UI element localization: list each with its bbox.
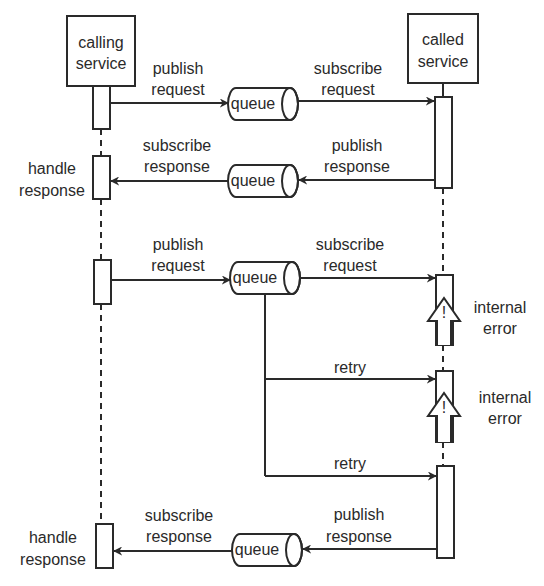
label-publish-request-2a: publish: [153, 236, 204, 253]
queue-2-label: queue: [231, 172, 276, 189]
label-subscribe-request-2a: subscribe: [316, 236, 385, 253]
label-handle-response-2b: response: [20, 551, 86, 568]
calling-service-label-1: calling: [78, 34, 123, 51]
callee-activation-4: [437, 466, 454, 558]
caller-activation-4: [96, 524, 113, 568]
label-handle-response-1b: response: [19, 182, 85, 199]
queue-3-label: queue: [233, 269, 278, 286]
label-publish-request-2b: request: [151, 257, 205, 274]
label-retry-2: retry: [334, 455, 366, 472]
called-service-box: called service: [408, 14, 478, 83]
queue-4-label: queue: [235, 541, 280, 558]
queue-3: queue: [230, 262, 300, 294]
calling-service-box: calling service: [67, 16, 135, 86]
sequence-diagram: calling service called service queue que…: [0, 0, 544, 586]
caller-activation-2: [93, 156, 110, 199]
label-handle-response-1a: handle: [28, 160, 76, 177]
warning-icon: !: [428, 393, 460, 442]
label-publish-response-1b: response: [324, 158, 390, 175]
caller-activation-3: [94, 260, 111, 304]
label-retry-1: retry: [334, 359, 366, 376]
label-publish-request-1b: request: [151, 81, 205, 98]
warning-glyph-1: !: [442, 304, 446, 321]
label-internal-error-2b: error: [488, 410, 522, 427]
label-subscribe-response-1a: subscribe: [143, 137, 212, 154]
queue-1-label: queue: [231, 95, 276, 112]
label-subscribe-request-1b: request: [321, 81, 375, 98]
label-subscribe-request-1a: subscribe: [314, 60, 383, 77]
warning-glyph-2: !: [442, 399, 446, 416]
queue-4: queue: [232, 534, 302, 566]
label-handle-response-2a: handle: [29, 529, 77, 546]
label-publish-request-1a: publish: [153, 60, 204, 77]
label-subscribe-response-1b: response: [144, 158, 210, 175]
called-service-label-1: called: [422, 31, 464, 48]
callee-activation-1: [435, 97, 452, 188]
label-publish-response-1a: publish: [332, 137, 383, 154]
label-publish-response-2b: response: [326, 528, 392, 545]
label-internal-error-1b: error: [483, 320, 517, 337]
calling-service-label-2: service: [76, 55, 127, 72]
label-internal-error-2a: internal: [479, 389, 531, 406]
called-service-label-2: service: [418, 53, 469, 70]
caller-activation-1: [93, 86, 110, 129]
label-publish-response-2a: publish: [334, 506, 385, 523]
warning-icon: !: [428, 298, 460, 345]
label-subscribe-request-2b: request: [323, 257, 377, 274]
queue-2: queue: [228, 165, 298, 197]
label-internal-error-1a: internal: [474, 299, 526, 316]
label-subscribe-response-2b: response: [146, 528, 212, 545]
queue-1: queue: [228, 88, 298, 120]
label-subscribe-response-2a: subscribe: [145, 507, 214, 524]
